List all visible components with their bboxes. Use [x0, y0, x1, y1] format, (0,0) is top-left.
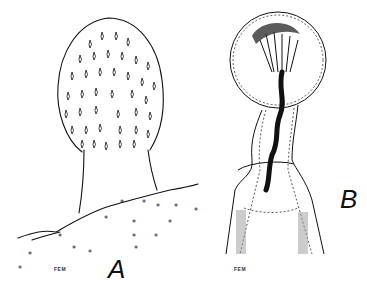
svg-text:*: *	[72, 245, 76, 254]
svg-text:*: *	[142, 199, 146, 208]
artist-signature-a: FEM	[54, 266, 66, 272]
svg-text:*: *	[88, 249, 92, 258]
svg-text:*: *	[58, 233, 62, 242]
cap-stipple	[252, 23, 300, 44]
panel-label-a: A	[108, 256, 125, 282]
coiled-canal	[266, 72, 282, 190]
artist-signature-b: FEM	[234, 266, 246, 272]
panel-a-drawing: ***** *** *** *** **	[0, 0, 200, 286]
svg-text:*: *	[132, 219, 136, 228]
svg-text:*: *	[194, 207, 198, 216]
spine-pattern	[65, 32, 156, 150]
panel-a: ***** *** *** *** ** A FEM	[0, 0, 200, 286]
panel-label-b: B	[340, 186, 357, 212]
svg-text:*: *	[18, 265, 22, 274]
svg-text:*: *	[28, 251, 32, 260]
panel-b: B FEM	[200, 0, 367, 286]
svg-text:*: *	[174, 203, 178, 212]
panel-b-drawing	[200, 0, 367, 286]
svg-text:*: *	[156, 203, 160, 212]
svg-text:*: *	[134, 245, 138, 254]
svg-text:*: *	[154, 233, 158, 242]
svg-text:*: *	[104, 215, 108, 224]
svg-text:*: *	[132, 233, 136, 242]
svg-text:*: *	[168, 219, 172, 228]
svg-text:*: *	[120, 199, 124, 208]
